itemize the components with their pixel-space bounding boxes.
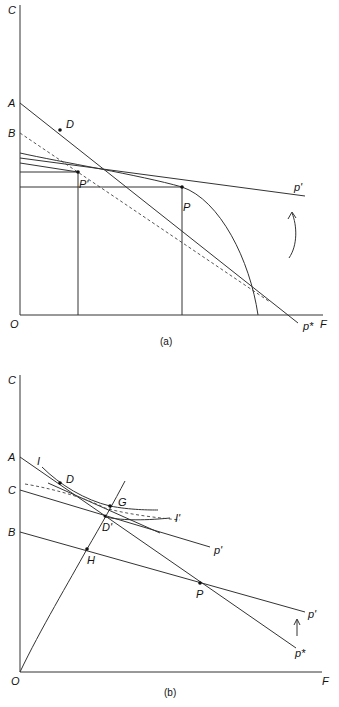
a-label-P: P	[183, 201, 191, 213]
a-point-D	[58, 128, 62, 132]
a-label-F: F	[320, 318, 328, 330]
b-point-D	[58, 481, 62, 485]
b-label-pprime-lower: p'	[307, 608, 317, 620]
a-label-pprime: p'	[293, 181, 303, 193]
b-point-Dprime	[104, 515, 107, 518]
diagram-canvas: C A B D P' P p' p* O F (a)	[0, 0, 339, 707]
b-point-H	[85, 547, 89, 551]
a-ppf-curve	[20, 153, 258, 315]
b-label-I: I	[37, 455, 40, 467]
b-label-O: O	[11, 675, 20, 687]
a-line-pprime	[20, 158, 305, 196]
panel-a: C A B D P' P p' p* O F (a)	[7, 4, 328, 347]
b-label-C-axis: C	[8, 374, 16, 386]
b-label-A: A	[7, 451, 15, 463]
b-point-P	[198, 581, 202, 585]
b-label-B: B	[8, 526, 15, 538]
a-label-D: D	[66, 118, 74, 130]
a-line-A-pstar	[20, 103, 298, 323]
b-caption: (b)	[164, 687, 176, 698]
a-label-C: C	[8, 4, 16, 16]
a-point-Pprime	[76, 170, 80, 174]
a-label-O: O	[10, 318, 19, 330]
panel-b: C A C B I D G D' I' p' H P p' p* O F (b)	[7, 374, 330, 698]
a-label-Pprime: P'	[79, 178, 89, 190]
b-label-pprime-upper: p'	[213, 544, 223, 556]
a-rotation-arrow	[289, 213, 296, 258]
b-label-H: H	[87, 554, 95, 566]
a-label-pstar: p*	[302, 320, 314, 332]
b-label-D: D	[66, 473, 74, 485]
a-label-B: B	[8, 127, 15, 139]
b-line-B-pprime	[20, 532, 305, 612]
b-label-G: G	[118, 496, 127, 508]
b-label-Iprime: I'	[175, 512, 181, 524]
b-line-A-pstar	[20, 457, 296, 648]
b-ray-origin	[20, 481, 125, 672]
b-label-F: F	[322, 675, 330, 687]
a-dashed-line-B	[20, 133, 270, 302]
b-label-C: C	[8, 484, 16, 496]
b-label-Dprime: D'	[102, 521, 113, 533]
a-caption: (a)	[160, 336, 172, 347]
b-point-G	[108, 504, 112, 508]
a-label-A: A	[7, 97, 15, 109]
a-point-P	[180, 185, 184, 189]
b-label-P: P	[196, 588, 204, 600]
b-label-pstar: p*	[294, 647, 306, 659]
